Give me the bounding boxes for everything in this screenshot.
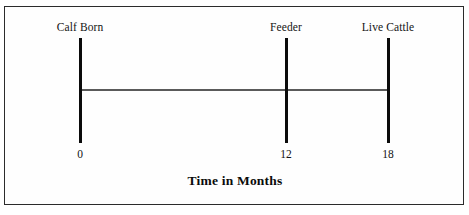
tick-mark-feeder (285, 38, 289, 143)
stage-label-calf-born: Calf Born (57, 21, 104, 33)
tick-label-18: 18 (382, 148, 394, 160)
stage-label-feeder: Feeder (270, 21, 302, 33)
timeline-plot-area: Calf Born 0 Feeder 12 Live Cattle 18 Tim… (0, 0, 469, 215)
tick-mark-calf-born (79, 38, 83, 143)
tick-mark-live-cattle (387, 38, 391, 143)
stage-label-live-cattle: Live Cattle (362, 21, 415, 33)
axis-title: Time in Months (188, 173, 283, 189)
timeline-axis-line (80, 89, 388, 91)
tick-label-12: 12 (280, 148, 292, 160)
timeline-figure: Calf Born 0 Feeder 12 Live Cattle 18 Tim… (0, 0, 469, 215)
tick-label-0: 0 (77, 148, 83, 160)
